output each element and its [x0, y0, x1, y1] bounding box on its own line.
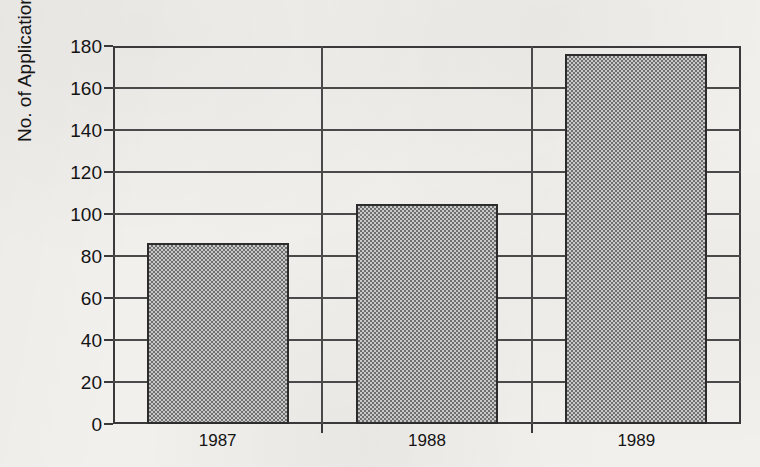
category-separator — [321, 46, 323, 424]
y-axis-tick-mark — [104, 339, 113, 341]
y-axis-tick-label: 100 — [40, 205, 102, 224]
chart-screenshot: No. of Applications (000) 02040608010012… — [0, 0, 760, 467]
bar — [356, 204, 498, 425]
y-axis-tick-labels: 020406080100120140160180 — [40, 0, 102, 467]
y-axis-tick-mark — [104, 381, 113, 383]
y-axis-tick-mark — [104, 297, 113, 299]
x-axis-tick-label: 1989 — [532, 432, 741, 449]
x-axis-tick-labels: 198719881989 — [113, 432, 741, 462]
x-axis-tick-label: 1987 — [113, 432, 322, 449]
y-axis-tick-mark — [104, 171, 113, 173]
y-axis-tick-mark — [104, 423, 113, 425]
y-axis-tick-label: 40 — [40, 331, 102, 350]
y-axis-tick-mark — [104, 45, 113, 47]
bar — [147, 243, 289, 424]
y-axis-tick-label: 140 — [40, 121, 102, 140]
category-separator — [531, 46, 533, 424]
y-axis-tick-label: 20 — [40, 373, 102, 392]
y-axis-tick-label: 160 — [40, 79, 102, 98]
y-axis-tick-mark — [104, 87, 113, 89]
y-axis-tick-label: 120 — [40, 163, 102, 182]
y-axis-tick-mark — [104, 213, 113, 215]
y-axis-tick-mark — [104, 129, 113, 131]
y-axis-title: No. of Applications (000) — [6, 0, 44, 250]
y-axis-tick-mark — [104, 255, 113, 257]
y-axis-tick-label: 0 — [40, 415, 102, 434]
y-axis-tick-label: 180 — [40, 37, 102, 56]
y-axis-tick-label: 80 — [40, 247, 102, 266]
x-axis-tick-label: 1988 — [322, 432, 531, 449]
bar — [565, 54, 707, 424]
plot-area — [113, 46, 741, 424]
y-axis-tick-label: 60 — [40, 289, 102, 308]
